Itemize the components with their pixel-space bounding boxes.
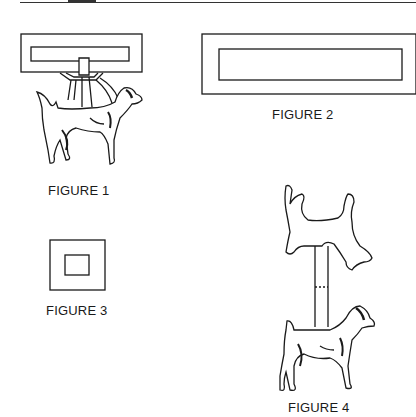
figure-4-illustration: [0, 0, 416, 417]
figure-4-caption: FIGURE 4: [288, 400, 350, 415]
